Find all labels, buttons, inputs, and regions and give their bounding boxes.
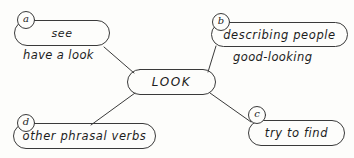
mindmap-canvas: a b c d see describing people try to fin…	[0, 0, 354, 158]
branch-b-extra-label: good-looking	[233, 50, 312, 64]
node-d[interactable]	[13, 123, 156, 149]
connector-center-to-d	[91, 93, 135, 125]
connector-center-to-c	[210, 93, 251, 122]
node-b[interactable]	[211, 22, 348, 47]
center-node[interactable]	[127, 69, 216, 95]
node-a[interactable]	[14, 20, 110, 46]
branch-a-extra-label: have a look	[23, 48, 94, 62]
node-c[interactable]	[248, 120, 345, 146]
